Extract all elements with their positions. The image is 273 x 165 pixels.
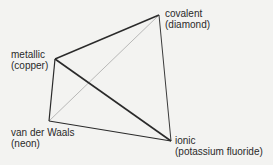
vertex-label-ionic: ionic (potassium fluoride) bbox=[175, 135, 263, 157]
ionic-label: ionic bbox=[175, 135, 263, 146]
edge-metallic-vanderwaals bbox=[49, 59, 55, 121]
ionic-example: (potassium fluoride) bbox=[175, 146, 263, 157]
covalent-label: covalent bbox=[165, 8, 210, 19]
vertex-label-vanderwaals: van der Waals (neon) bbox=[11, 127, 75, 149]
edge-metallic-covalent bbox=[55, 15, 159, 59]
covalent-example: (diamond) bbox=[165, 19, 210, 30]
vertex-label-metallic: metallic (copper) bbox=[11, 49, 48, 71]
vanderwaals-example: (neon) bbox=[11, 138, 75, 149]
edge-vanderwaals-covalent bbox=[49, 15, 159, 121]
edge-covalent-ionic bbox=[159, 15, 171, 141]
metallic-label: metallic bbox=[11, 49, 48, 60]
metallic-example: (copper) bbox=[11, 60, 48, 71]
vanderwaals-label: van der Waals bbox=[11, 127, 75, 138]
vertex-label-covalent: covalent (diamond) bbox=[165, 8, 210, 30]
